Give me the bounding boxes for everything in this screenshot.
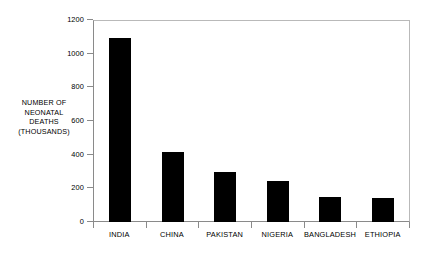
x-axis-tick — [198, 222, 199, 228]
bars-layer — [94, 21, 409, 222]
bar — [214, 172, 236, 222]
y-axis-title-line-4: (THOUSANDS) — [2, 127, 86, 137]
y-axis-title-line-1: NUMBER OF — [2, 98, 86, 108]
bar — [109, 38, 131, 222]
y-axis-tick-label: 400 — [44, 151, 84, 158]
y-axis-tick — [87, 53, 93, 54]
x-axis-tick — [409, 222, 410, 228]
x-axis-ticks — [93, 222, 411, 228]
x-axis-category-label: BANGLADESH — [304, 230, 357, 240]
y-axis-tick — [87, 19, 93, 20]
x-axis-tick — [93, 222, 94, 228]
x-axis-tick — [251, 222, 252, 228]
y-axis-tick — [87, 154, 93, 155]
y-axis-tick-label: 600 — [44, 117, 84, 124]
y-axis-tick-label: 200 — [44, 184, 84, 191]
bar — [267, 181, 289, 222]
y-axis-tick — [87, 187, 93, 188]
x-axis-tick — [146, 222, 147, 228]
x-axis-tick — [304, 222, 305, 228]
bar — [162, 152, 184, 222]
x-axis-tick — [356, 222, 357, 228]
x-axis-category-label: INDIA — [93, 230, 146, 240]
x-axis-category-label: ETHIOPIA — [356, 230, 409, 240]
x-axis-category-label: PAKISTAN — [198, 230, 251, 240]
x-axis-labels: INDIACHINAPAKISTANNIGERIABANGLADESHETHIO… — [93, 230, 411, 244]
x-axis-category-label: NIGERIA — [251, 230, 304, 240]
y-axis-tick — [87, 86, 93, 87]
bar-chart: NUMBER OF NEONATAL DEATHS (THOUSANDS) IN… — [0, 0, 424, 254]
y-axis-tick-label: 0 — [44, 218, 84, 225]
y-axis-tick — [87, 120, 93, 121]
bar — [319, 197, 341, 222]
y-axis-tick-label: 1000 — [44, 50, 84, 57]
bar — [372, 198, 394, 222]
y-axis-tick-label: 1200 — [44, 16, 84, 23]
y-axis-tick — [87, 221, 93, 222]
y-axis-tick-label: 800 — [44, 83, 84, 90]
x-axis-category-label: CHINA — [146, 230, 199, 240]
